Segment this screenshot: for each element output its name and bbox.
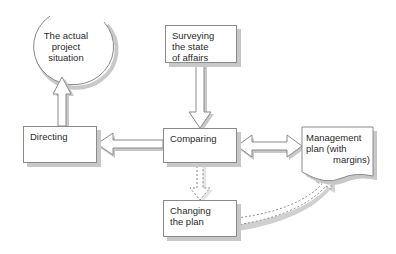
- changing-node: Changing the plan: [163, 200, 237, 237]
- directing-node: Directing: [23, 126, 97, 163]
- arrow-comparing-to-changing: [190, 162, 213, 202]
- changing-label: Changing the plan: [170, 205, 230, 227]
- situation-label: The actual project situation: [38, 30, 94, 63]
- arrow-comparing-to-directing: [97, 133, 165, 158]
- management-plan-label: Management plan (with margins): [306, 132, 370, 165]
- directing-label: Directing: [30, 131, 90, 142]
- surveying-label: Surveying the state of affairs: [172, 30, 230, 63]
- surveying-node: Surveying the state of affairs: [165, 25, 237, 63]
- arrow-comparing-management-plan: [237, 135, 304, 160]
- management-plan-line3: margins): [306, 154, 370, 165]
- management-plan-line2: plan (with: [306, 143, 370, 154]
- comparing-node: Comparing: [163, 128, 237, 163]
- arrow-surveying-to-comparing: [189, 62, 214, 130]
- management-plan-line1: Management: [306, 132, 370, 143]
- comparing-label: Comparing: [170, 133, 230, 144]
